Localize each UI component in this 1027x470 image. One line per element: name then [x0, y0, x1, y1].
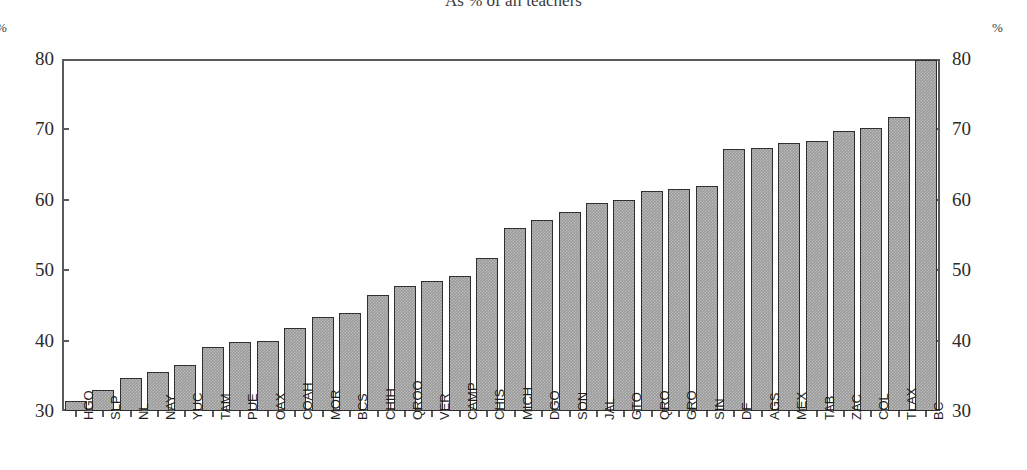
x-axis-tick-ver	[431, 411, 433, 417]
x-axis-tick-bc	[925, 411, 927, 417]
x-axis-label-chih: CHIH	[384, 388, 397, 420]
x-axis-label-gro: GRO	[685, 390, 698, 420]
x-axis-tick-camp	[459, 411, 461, 417]
x-axis-label-mich: MICH	[521, 387, 534, 420]
x-axis-tick-tam	[212, 411, 214, 417]
x-axis-label-hgo: HGO	[82, 390, 95, 420]
x-axis-label-nl: NL	[137, 403, 150, 420]
x-axis-label-tam: TAM	[219, 394, 232, 420]
x-axis-label-qroo: QROO	[411, 380, 424, 420]
x-axis-tick-qroo	[404, 411, 406, 417]
x-axis-label-bc: BC	[932, 402, 945, 420]
y-axis-label-left-80: 80	[20, 49, 54, 68]
y-axis-label-right-80: 80	[952, 49, 986, 68]
x-axis-tick-nl	[130, 411, 132, 417]
x-axis-label-chis: CHIS	[493, 389, 506, 420]
bar-gro	[668, 189, 690, 411]
bar-gto	[613, 200, 635, 411]
x-axis-label-mor: MOR	[329, 390, 342, 420]
bar-tab	[806, 141, 828, 411]
x-axis-tick-qro	[651, 411, 653, 417]
x-axis-label-slp: SLP	[109, 395, 122, 420]
x-axis-tick-mich	[514, 411, 516, 417]
x-axis-tick-pue	[239, 411, 241, 417]
bars-layer	[62, 59, 940, 411]
x-axis-tick-chih	[377, 411, 379, 417]
bar-tlax	[888, 117, 910, 411]
y-axis-label-right-30: 30	[952, 401, 986, 420]
bar-ags	[751, 148, 773, 411]
bar-son	[559, 212, 581, 411]
x-axis-label-mex: MEX	[795, 392, 808, 420]
bar-jal	[586, 203, 608, 411]
x-axis-label-bcs: BCS	[356, 393, 369, 420]
x-axis-tick-hgo	[75, 411, 77, 417]
left-axis-unit-label: %	[0, 20, 7, 36]
x-axis-tick-gro	[678, 411, 680, 417]
bar-col	[860, 128, 882, 411]
x-axis-tick-ags	[761, 411, 763, 417]
x-axis-tick-df	[733, 411, 735, 417]
bar-df	[723, 149, 745, 411]
right-axis-unit-label: %	[992, 20, 1003, 36]
x-axis-label-sin: SIN	[713, 398, 726, 420]
x-axis-label-tlax: TLAX	[905, 387, 918, 420]
x-axis-label-nay: NAY	[164, 394, 177, 420]
x-axis-label-dgo: DGO	[548, 390, 561, 420]
y-axis-label-right-60: 60	[952, 190, 986, 209]
bar-sin	[696, 186, 718, 411]
x-axis-tick-col	[870, 411, 872, 417]
x-axis-label-coah: COAH	[301, 382, 314, 420]
x-axis-tick-slp	[102, 411, 104, 417]
bar-bc	[915, 60, 937, 411]
x-axis-label-df: DF	[740, 403, 753, 420]
x-axis-label-ver: VER	[438, 393, 451, 420]
x-axis-tick-tlax	[898, 411, 900, 417]
x-axis-tick-sin	[706, 411, 708, 417]
x-axis-label-jal: JAL	[603, 398, 616, 420]
x-axis-tick-nay	[157, 411, 159, 417]
bar-mich	[504, 228, 526, 411]
bar-dgo	[531, 220, 553, 411]
x-axis-tick-zac	[843, 411, 845, 417]
x-axis-label-yuc: YUC	[191, 393, 204, 420]
x-axis-label-son: SON	[576, 392, 589, 420]
x-axis-label-tab: TAB	[823, 396, 836, 420]
y-axis-label-left-60: 60	[20, 190, 54, 209]
x-axis-tick-tab	[816, 411, 818, 417]
y-axis-label-left-50: 50	[20, 260, 54, 279]
x-axis-label-ags: AGS	[768, 393, 781, 420]
x-axis-label-zac: ZAC	[850, 394, 863, 420]
x-axis-label-col: COL	[877, 393, 890, 420]
x-axis-label-pue: PUE	[246, 393, 259, 420]
x-axis-tick-gto	[623, 411, 625, 417]
x-axis-tick-jal	[596, 411, 598, 417]
x-axis-tick-son	[569, 411, 571, 417]
x-axis-label-gto: GTO	[630, 392, 643, 420]
y-axis-label-left-70: 70	[20, 119, 54, 138]
x-axis-label-qro: QRO	[658, 390, 671, 420]
x-axis-tick-chis	[486, 411, 488, 417]
y-axis-label-right-70: 70	[952, 119, 986, 138]
x-axis-tick-coah	[294, 411, 296, 417]
chart-page: As % of all teachers % % 303040405050606…	[0, 0, 1027, 470]
x-axis-tick-bcs	[349, 411, 351, 417]
y-axis-label-left-40: 40	[20, 331, 54, 350]
x-axis-tick-mor	[322, 411, 324, 417]
x-axis-label-oax: OAX	[274, 393, 287, 420]
y-axis-label-right-40: 40	[952, 331, 986, 350]
bar-qro	[641, 191, 663, 411]
y-axis-label-left-30: 30	[20, 401, 54, 420]
x-axis-label-camp: CAMP	[466, 382, 479, 420]
bar-mex	[778, 143, 800, 411]
bar-zac	[833, 131, 855, 411]
x-axis-tick-yuc	[184, 411, 186, 417]
x-axis-tick-dgo	[541, 411, 543, 417]
x-axis-tick-mex	[788, 411, 790, 417]
x-axis-tick-oax	[267, 411, 269, 417]
chart-title: As % of all teachers	[0, 0, 1027, 11]
y-axis-label-right-50: 50	[952, 260, 986, 279]
